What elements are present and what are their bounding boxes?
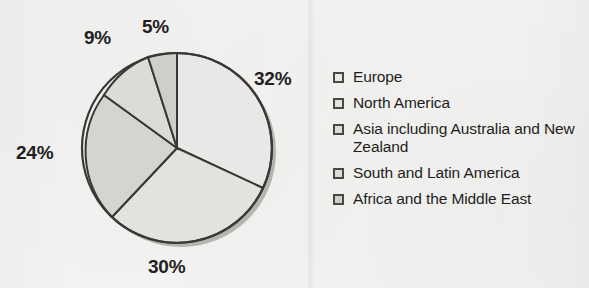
legend-item-south-latin-america[interactable]: South and Latin America (333, 164, 585, 182)
pie-chart-page: 32% 30% 24% 9% 5% Europe North America A… (0, 0, 589, 288)
legend-swatch-icon (333, 194, 344, 205)
legend-item-label: Europe (353, 68, 402, 86)
legend-item-label: South and Latin America (353, 164, 520, 182)
legend-item-europe[interactable]: Europe (333, 68, 585, 86)
legend-item-label: North America (353, 94, 450, 112)
legend-item-north-america[interactable]: North America (333, 94, 585, 112)
chart-legend: Europe North America Asia including Aust… (333, 68, 585, 216)
legend-item-label: Asia including Australia and New Zealand (353, 120, 585, 156)
pie-label-africa-middle-east: 5% (142, 16, 169, 38)
legend-item-africa-middle-east[interactable]: Africa and the Middle East (333, 190, 585, 208)
pie-label-south-latin-america: 30% (148, 256, 185, 278)
legend-swatch-icon (333, 98, 344, 109)
pie-label-europe: 32% (254, 68, 291, 90)
pie-chart-figure: 32% 30% 24% 9% 5% (0, 0, 310, 288)
pie-label-north-america: 24% (16, 142, 53, 164)
pie-label-asia: 9% (84, 27, 111, 49)
legend-item-asia[interactable]: Asia including Australia and New Zealand (333, 120, 585, 156)
legend-swatch-icon (333, 72, 344, 83)
legend-swatch-icon (333, 124, 344, 135)
legend-swatch-icon (333, 168, 344, 179)
legend-item-label: Africa and the Middle East (353, 190, 531, 208)
